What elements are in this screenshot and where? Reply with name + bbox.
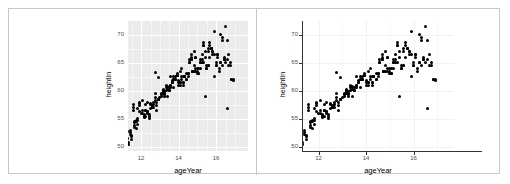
x-tick-label: 14 — [171, 155, 187, 161]
data-point — [424, 61, 427, 64]
data-point — [327, 117, 330, 120]
gridline-horizontal — [302, 147, 454, 148]
x-tick-label: 12 — [133, 155, 149, 161]
data-point — [138, 102, 141, 105]
figure-frame: heightIn ageYear 5055606570121416 height… — [8, 8, 500, 174]
y-tick-label: 65 — [284, 59, 298, 65]
data-point — [221, 39, 224, 42]
data-point — [204, 50, 207, 53]
gridline-vertical — [132, 21, 133, 151]
data-point — [144, 115, 147, 118]
data-point — [319, 112, 322, 115]
gridline-horizontal — [302, 91, 454, 92]
data-point — [319, 99, 322, 102]
data-point — [335, 71, 338, 74]
data-point — [313, 119, 316, 122]
data-point — [130, 138, 133, 141]
data-point — [141, 99, 144, 102]
data-point — [347, 95, 350, 98]
data-point — [172, 86, 175, 89]
data-point — [408, 50, 411, 53]
gridline-vertical — [414, 21, 415, 151]
data-point — [392, 67, 395, 70]
x-axis-title-left: ageYear — [118, 166, 258, 175]
x-axis-line — [302, 151, 482, 152]
data-point — [223, 58, 226, 61]
gridline-vertical — [151, 21, 152, 151]
y-tick-mark — [299, 91, 302, 92]
data-point — [325, 101, 328, 104]
data-point — [426, 39, 429, 42]
data-point — [182, 84, 185, 87]
data-point — [155, 104, 158, 107]
data-point — [384, 50, 387, 53]
data-point — [215, 64, 218, 67]
scatter-plot-right: heightIn ageYear 5055606570121416 — [257, 9, 501, 175]
data-point — [144, 103, 147, 106]
data-point — [375, 78, 378, 81]
data-point — [221, 64, 224, 67]
data-point — [337, 101, 340, 104]
data-point — [420, 64, 423, 67]
data-point — [404, 56, 407, 59]
data-point — [398, 95, 401, 98]
gridline-vertical — [188, 21, 189, 151]
data-point — [208, 56, 211, 59]
gridline-vertical — [235, 21, 236, 151]
x-tick-mark — [366, 152, 367, 155]
gridline-horizontal — [302, 119, 454, 120]
data-point — [339, 98, 342, 101]
data-point — [335, 96, 338, 99]
plot-panel-left — [128, 21, 248, 151]
data-point — [185, 78, 188, 81]
data-point — [381, 53, 384, 56]
gridline-vertical — [319, 21, 320, 151]
x-tick-label: 16 — [406, 155, 422, 161]
data-point — [402, 64, 405, 67]
y-tick-label: 60 — [110, 87, 124, 93]
data-point — [146, 110, 149, 113]
data-point — [202, 44, 205, 47]
data-point — [190, 53, 193, 56]
data-point — [182, 81, 185, 84]
data-point — [426, 107, 429, 110]
x-tick-label: 16 — [208, 155, 224, 161]
x-tick-label: 12 — [311, 155, 327, 161]
data-point — [196, 70, 199, 73]
data-point — [347, 92, 350, 95]
data-point — [390, 72, 393, 75]
data-point — [201, 53, 204, 56]
data-point — [305, 138, 308, 141]
data-point — [378, 61, 381, 64]
data-point — [128, 137, 129, 140]
y-tick-mark — [299, 147, 302, 148]
data-point — [412, 64, 415, 67]
data-point — [307, 109, 310, 112]
x-tick-mark — [319, 152, 320, 155]
data-point — [410, 53, 413, 56]
data-point — [398, 50, 401, 53]
y-tick-label: 55 — [284, 115, 298, 121]
data-point — [204, 56, 207, 59]
data-point — [323, 103, 326, 106]
data-point — [355, 75, 358, 78]
data-point — [218, 70, 221, 73]
x-tick-mark — [414, 152, 415, 155]
data-point — [313, 123, 316, 126]
data-point — [315, 102, 318, 105]
data-point — [132, 109, 135, 112]
data-point — [428, 64, 431, 67]
data-point — [367, 81, 370, 84]
data-point — [371, 84, 374, 87]
y-tick-label: 60 — [284, 87, 298, 93]
y-tick-mark — [299, 119, 302, 120]
data-point — [335, 92, 338, 95]
data-point — [337, 109, 340, 112]
data-point — [155, 109, 158, 112]
data-point — [148, 113, 151, 116]
y-axis-title-right: heightIn — [279, 65, 286, 105]
plot-panel-right — [302, 21, 454, 151]
data-point — [400, 67, 403, 70]
gridline-vertical — [437, 21, 438, 151]
y-tick-mark — [299, 63, 302, 64]
